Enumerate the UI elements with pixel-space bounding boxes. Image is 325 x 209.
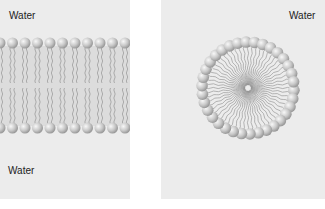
lipid-bilayer-illustration [0, 0, 130, 199]
micelle-illustration [161, 0, 325, 199]
lipid-bilayer-panel: Water Water [0, 0, 130, 199]
micelle-panel: Water [161, 0, 325, 199]
